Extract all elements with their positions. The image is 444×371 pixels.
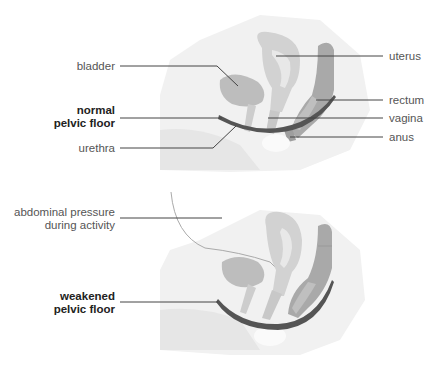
label-weakened-pelvic-floor-line2: pelvic floor (54, 303, 115, 316)
label-rectum: rectum (389, 94, 424, 107)
label-normal-pelvic-floor-line2: pelvic floor (54, 117, 115, 130)
label-normal-pelvic-floor-line1: normal (77, 104, 115, 117)
label-weakened-pelvic-floor-line1: weakened (60, 290, 115, 303)
label-anus: anus (389, 131, 414, 144)
weakened-pelvis-drawing (160, 192, 365, 355)
label-vagina: vagina (389, 112, 423, 125)
label-abdominal-pressure-line1: abdominal pressure (14, 206, 115, 219)
label-bladder: bladder (77, 60, 115, 73)
label-uterus: uterus (389, 50, 421, 63)
label-urethra: urethra (79, 142, 115, 155)
label-abdominal-pressure-line2: during activity (45, 219, 115, 232)
